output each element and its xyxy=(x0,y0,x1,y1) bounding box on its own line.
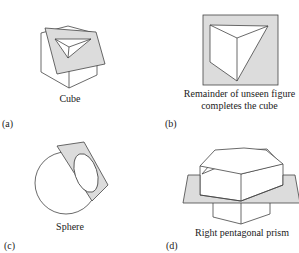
pentagonal-prism-with-plane xyxy=(183,148,299,224)
caption-remainder-line2: completes the cube xyxy=(180,100,299,112)
cube-section-view xyxy=(203,15,278,85)
sphere-with-plane xyxy=(35,142,108,214)
label-d: (d) xyxy=(166,240,178,251)
caption-prism: Right pentagonal prism xyxy=(185,227,299,239)
label-c: (c) xyxy=(4,240,15,251)
cube-with-plane xyxy=(41,26,105,88)
label-b: (b) xyxy=(165,118,177,129)
caption-sphere: Sphere xyxy=(45,221,95,233)
caption-cube: Cube xyxy=(40,93,100,105)
label-a: (a) xyxy=(2,118,13,129)
caption-remainder-line1: Remainder of unseen figure xyxy=(180,88,299,100)
caption-remainder: Remainder of unseen figure completes the… xyxy=(180,88,299,112)
cross-section-figures xyxy=(0,0,299,253)
